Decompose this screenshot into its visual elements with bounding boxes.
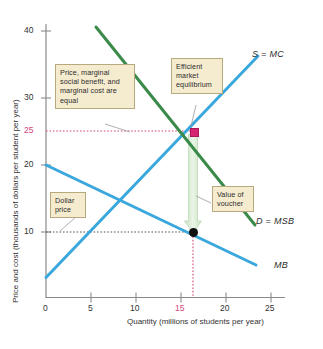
xtick-5: 5 xyxy=(88,303,93,313)
annotation-efficient-equilibrium: Efficient market equilibrium xyxy=(171,58,223,94)
xtick-15: 15 xyxy=(175,303,184,313)
annotation-price-msb-mc-equal: Price, marginal social benefit, and marg… xyxy=(55,64,135,109)
curve-label-mb: MB xyxy=(274,260,288,270)
annotation-value-of-voucher: Value of voucher xyxy=(212,186,254,212)
x-axis-title: Quantity (millions of students per year) xyxy=(127,317,264,326)
ytick-40: 40 xyxy=(24,25,33,35)
xtick-10: 10 xyxy=(130,303,139,313)
ytick-20: 20 xyxy=(24,159,33,169)
ytick-10: 10 xyxy=(24,226,33,236)
curve-label-d-msb: D = MSB xyxy=(256,216,294,226)
xtick-0: 0 xyxy=(43,303,48,313)
y-axis-title: Price and cost (thousands of dollars per… xyxy=(11,99,20,303)
ytick-25: 25 xyxy=(24,125,33,135)
xtick-25: 25 xyxy=(265,303,274,313)
curve-label-s-mc: S = MC xyxy=(252,49,284,59)
ytick-30: 30 xyxy=(24,92,33,102)
annotation-dollar-price: Dollar price xyxy=(50,192,86,218)
efficient-equilibrium-marker xyxy=(190,128,199,137)
dollar-price-marker xyxy=(189,228,198,237)
xtick-20: 20 xyxy=(220,303,229,313)
